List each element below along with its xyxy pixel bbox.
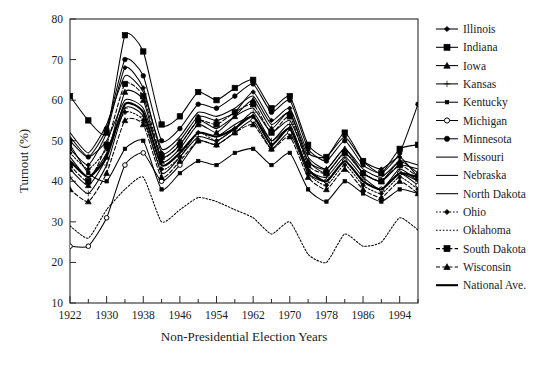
y-axis: 1020304050607080 [52,13,77,309]
legend-label: Minnesota [463,133,512,145]
series-iowa [67,89,421,188]
series-indiana [67,33,420,176]
x-tick-label: 1986 [352,309,375,321]
chart-canvas: 1020304050607080192219301938194619541962… [0,0,549,367]
legend-item-minnesota[interactable]: Minnesota [436,133,512,145]
x-tick-label: 1938 [132,309,155,321]
y-tick-label: 50 [52,135,64,147]
legend-item-oklahoma[interactable]: Oklahoma [436,224,511,236]
legend-item-national-ave[interactable]: National Ave. [436,279,526,291]
series-markers [67,33,420,176]
x-tick-label: 1930 [95,309,118,321]
legend-item-wisconsin[interactable]: Wisconsin [436,261,511,273]
x-tick-label: 1994 [388,309,411,321]
series-markers [68,110,421,196]
legend-item-ohio[interactable]: Ohio [436,206,486,218]
y-tick-label: 60 [52,94,64,106]
legend-label: National Ave. [463,279,526,291]
legend-item-iowa[interactable]: Iowa [436,60,486,72]
legend-item-south-dakota[interactable]: South Dakota [436,243,526,255]
legend-label: Nebraska [463,169,506,181]
x-tick-label: 1970 [278,309,301,321]
legend-label: Michigan [463,115,507,128]
series-ohio [68,110,421,196]
legend-item-michigan[interactable]: Michigan [436,115,507,128]
legend-label: Kansas [463,78,497,90]
series-layer [67,33,421,263]
legend-label: Indiana [463,41,497,53]
legend-item-nebraska[interactable]: Nebraska [436,169,506,181]
legend-label: Wisconsin [463,261,511,273]
series-markers [67,118,421,204]
legend-label: Iowa [463,60,486,72]
x-tick-label: 1962 [242,309,265,321]
legend-item-kansas[interactable]: Kansas [436,78,497,90]
y-tick-label: 20 [52,256,64,268]
x-tick-label: 1954 [205,309,228,321]
legend-label: South Dakota [463,243,526,255]
legend-label: Illinois [463,23,496,35]
y-tick-label: 70 [52,54,64,66]
legend-item-indiana[interactable]: Indiana [436,41,497,53]
legend-item-illinois[interactable]: Illinois [436,23,496,35]
series-markers [67,89,421,188]
y-tick-label: 40 [52,175,64,187]
y-tick-label: 10 [52,297,64,309]
y-tick-label: 80 [52,13,64,25]
legend: IllinoisIndianaIowaKansasKentuckyMichiga… [436,23,526,291]
y-tick-label: 30 [52,216,64,228]
x-axis: 1922193019381946195419621970197819861994 [59,296,419,321]
y-axis-title: Turnout (%) [16,129,31,193]
x-tick-label: 1946 [168,309,191,321]
turnout-line-chart: 1020304050607080192219301938194619541962… [0,0,549,367]
legend-label: North Dakota [463,188,526,200]
legend-label: Oklahoma [463,224,511,236]
legend-item-north-dakota[interactable]: North Dakota [436,188,526,200]
series-wisconsin [67,118,421,204]
x-axis-title: Non-Presidential Election Years [161,329,327,344]
x-tick-label: 1978 [315,309,338,321]
legend-label: Missouri [463,151,504,163]
x-tick-label: 1922 [59,309,82,321]
legend-label: Ohio [463,206,486,218]
legend-item-missouri[interactable]: Missouri [436,151,504,163]
legend-label: Kentucky [463,96,508,109]
series-oklahoma [70,177,418,263]
legend-item-kentucky[interactable]: Kentucky [436,96,508,109]
